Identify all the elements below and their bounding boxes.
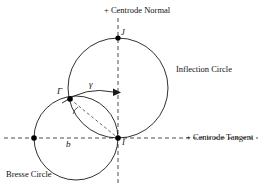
point-left-dot bbox=[31, 135, 37, 141]
point-j-dot bbox=[115, 35, 120, 40]
point-gamma-label: Γ bbox=[57, 87, 62, 96]
point-i-dot bbox=[115, 135, 121, 141]
gamma-arrowhead bbox=[113, 89, 121, 97]
centrode-normal-label: + Centrode Normal bbox=[104, 6, 170, 15]
gamma-angle-label: γ bbox=[89, 80, 93, 89]
kinematics-diagram: + Centrode Normal + Centrode Tangent Inf… bbox=[0, 0, 264, 190]
bresse-circle-label: Bresse Circle bbox=[6, 170, 52, 179]
distance-b-label: b bbox=[66, 140, 71, 149]
centrode-tangent-label: + Centrode Tangent bbox=[186, 133, 253, 142]
point-gamma-dot bbox=[67, 96, 73, 102]
inflection-circle-label: Inflection Circle bbox=[176, 65, 232, 74]
point-j-label: J bbox=[121, 28, 125, 37]
diagram-canvas bbox=[0, 0, 264, 190]
point-i-label: I bbox=[122, 138, 125, 147]
